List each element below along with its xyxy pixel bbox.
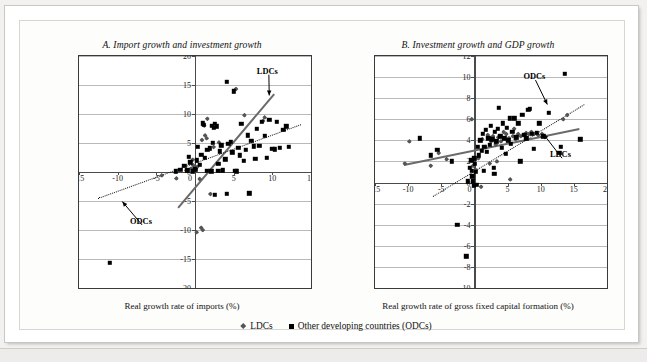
- data-point-odc: [196, 145, 200, 149]
- data-point-odc: [495, 127, 499, 131]
- y-tick-label: -2: [444, 199, 470, 208]
- data-point-odc: [499, 146, 503, 150]
- annotation-odcs: ODCs: [523, 72, 545, 81]
- y-tick-mark: [471, 246, 474, 247]
- data-point-odc: [225, 79, 229, 83]
- data-point-odc: [239, 122, 243, 126]
- data-point-odc: [487, 142, 491, 146]
- x-tick-label: 10: [268, 174, 276, 183]
- data-point-odc: [546, 111, 550, 115]
- y-tick-mark: [471, 225, 474, 226]
- data-point-odc: [216, 169, 220, 173]
- y-axis-zero-line: [195, 56, 196, 288]
- data-point-odc: [418, 136, 422, 140]
- data-point-ldc: [508, 177, 513, 182]
- data-point-ldc: [479, 184, 484, 189]
- y-tick-mark: [471, 288, 474, 289]
- y-tick-label: -10: [165, 226, 191, 235]
- panel-b-x-axis-label: Real growth rate of gross fixed capital …: [330, 301, 626, 311]
- annotation-arrow-ldcs: [375, 56, 607, 288]
- page-bottom-strip: [0, 348, 647, 362]
- gridline: [375, 225, 607, 226]
- y-tick-mark: [192, 201, 195, 202]
- data-point-odc: [242, 159, 246, 163]
- data-point-odc: [472, 184, 476, 188]
- data-point-odc: [214, 124, 218, 128]
- data-point-odc: [197, 163, 201, 167]
- gridline: [375, 119, 607, 120]
- annotation-odcs: ODCs: [130, 217, 152, 226]
- y-tick-mark: [192, 230, 195, 231]
- data-point-odc: [450, 159, 454, 163]
- data-point-odc: [480, 149, 484, 153]
- y-tick-mark: [471, 267, 474, 268]
- x-tick-mark: [607, 183, 608, 186]
- data-point-odc: [491, 166, 495, 170]
- data-point-odc: [230, 150, 234, 154]
- y-tick-label: -8: [444, 262, 470, 271]
- data-point-odc: [278, 145, 282, 149]
- gridline: [375, 77, 607, 78]
- y-tick-mark: [192, 288, 195, 289]
- data-point-odc: [272, 147, 276, 151]
- data-point-odc: [477, 153, 481, 157]
- y-tick-mark: [471, 56, 474, 57]
- y-tick-mark: [471, 77, 474, 78]
- figure-container: A. Import growth and investment growth R…: [19, 20, 625, 330]
- data-point-odc: [464, 254, 468, 258]
- y-tick-label: 5: [165, 139, 191, 148]
- panel-a-x-axis-label: Real growth rate of imports (%): [34, 301, 330, 311]
- data-point-odc: [221, 168, 225, 172]
- data-point-odc: [481, 132, 485, 136]
- panel-b: B. Investment growth and GDP growth Real…: [330, 39, 626, 329]
- x-tick-label: 20: [603, 185, 608, 194]
- data-point-odc: [255, 127, 259, 131]
- data-point-ldc: [199, 138, 204, 143]
- data-point-odc: [562, 72, 566, 76]
- data-point-odc: [249, 138, 253, 142]
- legend-label-odcs: Other developing countries (ODCs): [298, 321, 432, 331]
- data-point-odc: [219, 143, 223, 147]
- data-point-odc: [497, 105, 501, 109]
- x-tick-label: 10: [537, 185, 545, 194]
- diamond-marker-icon: [240, 323, 246, 329]
- data-point-odc: [524, 136, 528, 140]
- gridline: [375, 246, 607, 247]
- y-tick-label: 10: [165, 110, 191, 119]
- data-point-odc: [518, 159, 522, 163]
- data-point-odc: [213, 192, 217, 196]
- x-tick-label-zero: 0: [188, 174, 192, 183]
- data-point-odc: [537, 121, 541, 125]
- data-point-odc: [512, 116, 516, 120]
- square-marker-icon: [289, 324, 294, 329]
- data-point-ldc: [174, 176, 179, 181]
- data-point-odc: [210, 123, 214, 127]
- data-point-odc: [532, 147, 536, 151]
- data-point-odc: [207, 146, 211, 150]
- data-point-odc: [257, 144, 261, 148]
- y-tick-mark: [192, 114, 195, 115]
- annotation-arrow-odcs: [375, 56, 607, 288]
- legend-item-ldcs: LDCs: [240, 321, 272, 331]
- data-point-odc: [275, 119, 279, 123]
- data-point-odc: [262, 134, 266, 138]
- gridline: [375, 56, 607, 57]
- data-point-odc: [216, 162, 220, 166]
- data-point-odc: [284, 124, 288, 128]
- data-point-odc: [225, 192, 229, 196]
- x-tick-mark: [311, 172, 312, 175]
- x-tick-label: -10: [112, 174, 123, 183]
- data-point-odc: [489, 123, 493, 127]
- gridline: [375, 98, 607, 99]
- data-point-odc: [235, 169, 239, 173]
- scan-frame: A. Import growth and investment growth R…: [5, 6, 638, 342]
- data-point-odc: [528, 107, 532, 111]
- y-tick-label: -20: [165, 284, 191, 290]
- data-point-odc: [236, 145, 240, 149]
- data-point-odc: [478, 138, 482, 142]
- y-tick-label: 15: [165, 81, 191, 90]
- panel-a: A. Import growth and investment growth R…: [34, 39, 330, 329]
- data-point-odc: [218, 149, 222, 153]
- data-point-odc: [494, 139, 498, 143]
